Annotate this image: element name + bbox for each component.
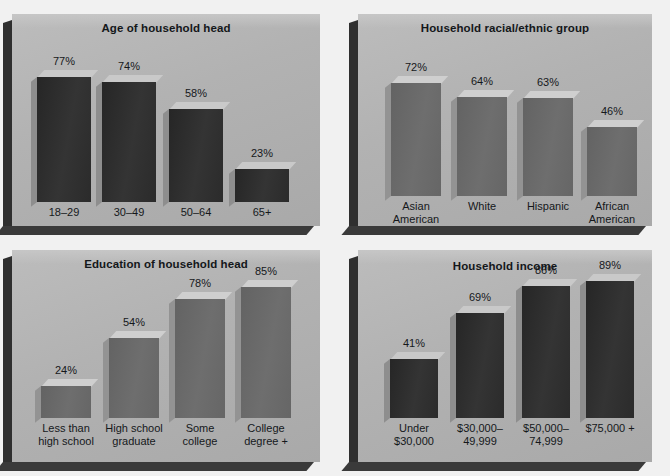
bar-front-face (37, 77, 91, 202)
bar-front-face (456, 313, 504, 418)
bar-front-face (241, 287, 291, 418)
figure-root: Age of household head77%18–2974%30–4958%… (0, 0, 670, 476)
panel-bottom-edge (0, 226, 314, 235)
bar-race-2 (523, 91, 573, 196)
bar-value-label-race-2: 63% (509, 76, 587, 88)
bar-front-face (522, 286, 570, 418)
bar-age-1 (102, 75, 156, 202)
panel-bottom-edge (341, 462, 646, 471)
bar-front-face (457, 97, 507, 196)
bar-value-label-income-0: 41% (376, 337, 452, 349)
bar-value-label-age-3: 23% (221, 147, 303, 159)
plot-area-income: 41%Under $30,00069%$30,000– 49,99986%$50… (358, 250, 652, 462)
bar-age-3 (235, 162, 289, 202)
bar-education-1 (109, 331, 159, 418)
bar-race-1 (457, 90, 507, 196)
panel-face: Household racial/ethnic group72%Asian Am… (358, 14, 652, 226)
plot-area-race: 72%Asian American64%White63%Hispanic46%A… (358, 14, 652, 226)
panel-left-edge (349, 256, 358, 468)
panel-face: Age of household head77%18–2974%30–4958%… (12, 14, 320, 226)
bar-value-label-age-1: 74% (88, 60, 170, 72)
bar-front-face (169, 109, 223, 202)
bar-education-2 (175, 292, 225, 418)
bar-value-label-income-1: 69% (442, 291, 518, 303)
bar-value-label-education-1: 54% (95, 316, 173, 328)
category-label-income-3: $75,000 + (569, 422, 651, 435)
bar-race-3 (587, 120, 637, 196)
bar-front-face (390, 359, 438, 418)
bar-value-label-race-3: 46% (573, 105, 651, 117)
panel-bottom-edge (0, 462, 314, 471)
panel-face: Education of household head24%Less than … (12, 250, 320, 462)
bar-front-face (102, 82, 156, 202)
bar-value-label-income-3: 89% (572, 259, 648, 271)
bar-value-label-age-2: 58% (155, 87, 237, 99)
panel-left-edge (3, 20, 12, 232)
chart-panel-race: Household racial/ethnic group72%Asian Am… (358, 14, 652, 226)
bar-front-face (175, 299, 225, 418)
bar-value-label-education-2: 78% (161, 277, 239, 289)
bar-income-2 (522, 279, 570, 418)
bar-front-face (235, 169, 289, 202)
chart-panel-education: Education of household head24%Less than … (12, 250, 320, 462)
plot-area-age: 77%18–2974%30–4958%50–6423%65+ (12, 14, 320, 226)
bar-income-3 (586, 274, 634, 418)
bar-front-face (391, 83, 441, 196)
bar-front-face (41, 386, 91, 418)
bar-value-label-education-0: 24% (27, 364, 105, 376)
bar-age-2 (169, 102, 223, 202)
chart-panel-income: Household income41%Under $30,00069%$30,0… (358, 250, 652, 462)
panel-left-edge (349, 20, 358, 232)
bar-value-label-race-0: 72% (377, 61, 455, 73)
chart-panel-age: Age of household head77%18–2974%30–4958%… (12, 14, 320, 226)
category-label-race-3: African American (570, 200, 654, 225)
bar-education-3 (241, 280, 291, 418)
bar-race-0 (391, 76, 441, 196)
bar-front-face (523, 98, 573, 196)
bar-front-face (587, 127, 637, 196)
plot-area-education: 24%Less than high school54%High school g… (12, 250, 320, 462)
category-label-age-3: 65+ (218, 206, 306, 219)
bar-income-0 (390, 352, 438, 418)
panel-bottom-edge (341, 226, 646, 235)
bar-front-face (109, 338, 159, 418)
bar-education-0 (41, 379, 91, 418)
bar-value-label-education-3: 85% (227, 265, 305, 277)
bar-age-0 (37, 70, 91, 202)
panel-left-edge (3, 256, 12, 468)
bar-front-face (586, 281, 634, 418)
bar-income-1 (456, 306, 504, 418)
category-label-education-3: College degree + (224, 422, 308, 447)
panel-face: Household income41%Under $30,00069%$30,0… (358, 250, 652, 462)
